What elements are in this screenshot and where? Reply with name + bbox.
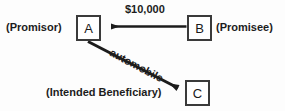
party-box-a[interactable]: A xyxy=(76,15,101,41)
role-label-promisee: (Promisee) xyxy=(216,22,273,33)
party-box-c[interactable]: C xyxy=(185,80,210,106)
party-box-a-letter: A xyxy=(84,22,93,35)
party-box-b[interactable]: B xyxy=(187,15,212,41)
role-label-promisor: (Promisor) xyxy=(6,22,62,33)
party-box-c-letter: C xyxy=(193,87,202,100)
role-label-intended-beneficiary: (Intended Beneficiary) xyxy=(46,87,162,98)
diagram-canvas: A B C (Promisor) (Promisee) (Intended Be… xyxy=(0,0,285,111)
party-box-b-letter: B xyxy=(195,22,204,35)
edge-label-money: $10,000 xyxy=(125,4,165,15)
